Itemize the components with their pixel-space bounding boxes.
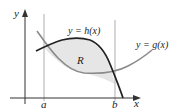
a-label: a (41, 98, 47, 108)
curve-g-label: y = g(x) (135, 39, 169, 51)
b-label: b (112, 98, 118, 108)
x-axis-label: x (133, 97, 139, 108)
region-r-label: R (76, 54, 84, 66)
area-diagram: y x a b R y = h(x) y = g(x) (0, 0, 182, 108)
y-axis-arrow-icon (22, 9, 28, 17)
y-axis-label: y (13, 7, 19, 19)
curve-h-label: y = h(x) (67, 25, 101, 37)
